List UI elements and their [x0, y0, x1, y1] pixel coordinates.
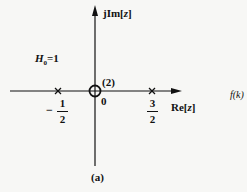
pole-1-sign: − [46, 103, 53, 118]
imag-axis-arrow-icon [92, 5, 98, 16]
z-plane-canvas [0, 0, 247, 192]
figure-caption: (a) [91, 172, 104, 183]
real-axis-label: Re[z] [171, 102, 195, 113]
gain-label: H0=1 [35, 53, 59, 67]
origin-label: 0 [101, 96, 107, 107]
pole-2-value: 32 [147, 98, 158, 125]
real-axis-arrow-icon [171, 88, 182, 94]
pole-1-value: 12 [57, 98, 68, 125]
side-text: f(k) [230, 90, 244, 100]
zero-multiplicity-label: (2) [102, 77, 115, 88]
imag-axis-label: jIm[z] [103, 8, 132, 19]
